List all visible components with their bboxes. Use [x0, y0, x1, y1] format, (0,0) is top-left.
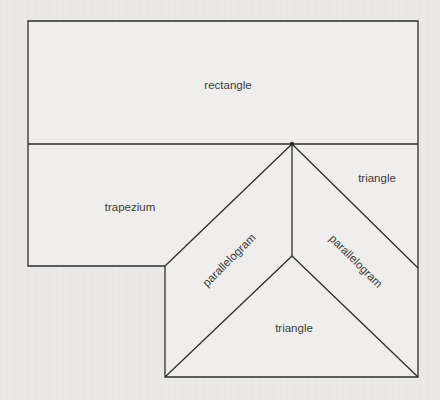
apex-junction-dot — [290, 142, 294, 146]
label-triangle-top-right: triangle — [358, 172, 396, 184]
diagram-canvas: rectangle trapezium triangle parallelogr… — [0, 0, 440, 400]
label-rectangle: rectangle — [204, 79, 251, 91]
label-trapezium: trapezium — [105, 201, 156, 213]
label-triangle-bottom: triangle — [275, 322, 313, 334]
shapes-diagram-svg: rectangle trapezium triangle parallelogr… — [0, 0, 440, 400]
shape-fills — [28, 21, 418, 377]
